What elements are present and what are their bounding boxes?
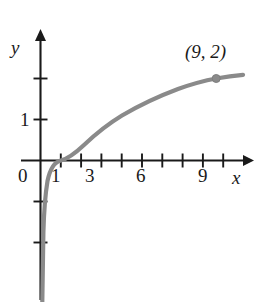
origin-label: 0 (18, 166, 28, 185)
logarithmic-function-graph: y x 0 1 1 3 6 9 (9, 2) (0, 0, 258, 302)
x-tick-label-3: 3 (85, 166, 95, 185)
y-axis-label: y (11, 38, 19, 57)
log-curve (42, 75, 243, 302)
x-tick-label-6: 6 (136, 166, 146, 185)
plotted-point-marker (212, 75, 220, 83)
x-axis-arrowhead (243, 155, 254, 166)
x-tick-label-9: 9 (198, 166, 208, 185)
y-tick-label-1: 1 (20, 110, 30, 129)
x-tick-label-1: 1 (51, 166, 61, 185)
y-axis-arrowhead (35, 29, 46, 41)
x-axis-label: x (232, 168, 240, 187)
point-annotation-label: (9, 2) (185, 42, 226, 61)
